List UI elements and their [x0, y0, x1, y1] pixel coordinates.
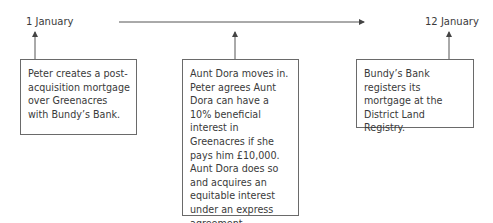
event-box-mortgage-registered: Bundy’s Bank registers its mortgage at t… [356, 59, 474, 128]
event-text: Bundy’s Bank registers its mortgage at t… [364, 68, 442, 133]
end-date-label: 12 January [425, 16, 479, 28]
event-box-mortgage-created: Peter creates a post-acquisition mortgag… [20, 59, 137, 135]
start-date-label: 1 January [26, 16, 73, 28]
event-box-aunt-dora-interest: Aunt Dora moves in. Peter agrees Aunt Do… [182, 59, 299, 216]
event-text: Aunt Dora moves in. Peter agrees Aunt Do… [190, 68, 288, 223]
event-text: Peter creates a post-acquisition mortgag… [28, 68, 130, 120]
